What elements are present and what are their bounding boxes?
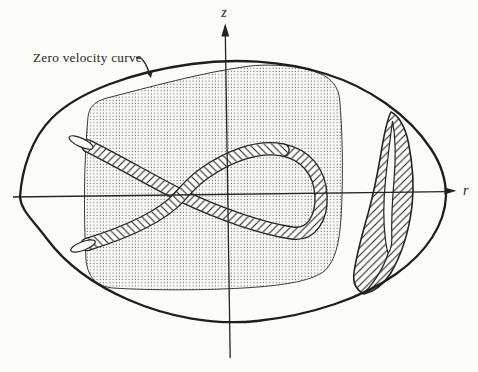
r-axis-label: r [463, 183, 469, 198]
figure-page: Zero velocity curve z r [0, 0, 478, 372]
r-axis-arrowhead-icon [445, 188, 457, 195]
z-axis-arrowhead-icon [221, 24, 229, 37]
zero-velocity-label: Zero velocity curve [33, 50, 142, 65]
stippled-region [84, 65, 342, 290]
z-axis-label: z [220, 5, 227, 20]
zero-velocity-diagram: Zero velocity curve z r [0, 0, 478, 372]
